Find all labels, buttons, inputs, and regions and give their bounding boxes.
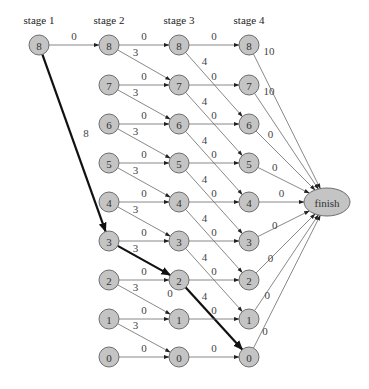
state-node-stage3-8: 8 — [169, 35, 189, 55]
edge-weight-label: 0 — [211, 304, 217, 316]
node-label: 8 — [176, 40, 182, 52]
edge-weight-label: 10 — [264, 85, 276, 97]
state-node-stage4-7: 7 — [239, 75, 259, 95]
edge-weight-label: 10 — [264, 45, 276, 57]
transition-edge — [186, 52, 243, 116]
node-label: 1 — [246, 314, 252, 326]
edge-weight-label: 0 — [211, 265, 217, 277]
edge-weight-label: 4 — [202, 95, 208, 107]
node-label: 8 — [36, 40, 42, 52]
edge-weight-label: 0 — [141, 187, 147, 199]
node-label: 6 — [176, 119, 182, 131]
state-node-stage2-3: 3 — [99, 231, 119, 251]
node-label: 0 — [176, 352, 182, 364]
finish-label: finish — [314, 197, 340, 209]
node-label: 4 — [106, 197, 112, 209]
node-label: 1 — [176, 314, 182, 326]
state-node-stage4-4: 4 — [239, 192, 259, 212]
node-label: 8 — [106, 40, 112, 52]
node-label: 0 — [106, 352, 112, 364]
node-label: 5 — [176, 158, 182, 170]
edge-weight-label: 0 — [141, 304, 147, 316]
node-label: 0 — [246, 352, 252, 364]
stage-label: stage 2 — [94, 14, 125, 26]
node-label: 5 — [246, 158, 252, 170]
edge-weight-label: 0 — [268, 128, 274, 140]
transition-edge — [258, 211, 309, 237]
state-node-stage4-0: 0 — [239, 347, 259, 367]
state-node-stage4-2: 2 — [239, 270, 259, 290]
edge-weight-label: 3 — [133, 164, 139, 176]
edge-weight-label: 0 — [211, 109, 217, 121]
finish-node: finish — [304, 188, 350, 216]
edge-weight-label: 0 — [272, 219, 278, 231]
edge-weight-label: 0 — [211, 30, 217, 42]
state-node-stage2-7: 7 — [99, 75, 119, 95]
state-node-stage3-7: 7 — [169, 75, 189, 95]
state-node-stage4-5: 5 — [239, 153, 259, 173]
edge-weight-label: 0 — [167, 287, 173, 299]
state-node-stage1-8: 8 — [29, 35, 49, 55]
edge-weight-label: 0 — [141, 148, 147, 160]
node-label: 5 — [106, 158, 112, 170]
edge-weight-label: 4 — [202, 290, 208, 302]
state-node-stage3-2: 2 — [169, 270, 189, 290]
edge-weight-label: 3 — [133, 46, 139, 58]
state-node-stage4-8: 8 — [239, 35, 259, 55]
node-label: 2 — [246, 275, 252, 287]
node-label: 3 — [246, 236, 252, 248]
edge-weight-label: 0 — [264, 289, 270, 301]
edge-weight-label: 0 — [141, 109, 147, 121]
state-node-stage3-4: 4 — [169, 192, 189, 212]
edge-weight-label: 0 — [141, 70, 147, 82]
edge-weight-label: 3 — [133, 125, 139, 137]
edge-weight-label: 4 — [202, 251, 208, 263]
node-label: 8 — [246, 40, 252, 52]
edge-weight-label: 4 — [202, 134, 208, 146]
optimal-path-edge — [186, 287, 243, 349]
edge-weight-label: 4 — [202, 173, 208, 185]
node-label: 3 — [176, 236, 182, 248]
optimal-path-edge — [42, 54, 105, 231]
node-label: 1 — [106, 314, 112, 326]
node-label: 2 — [176, 275, 182, 287]
state-node-stage4-6: 6 — [239, 114, 259, 134]
edge-weight-label: 3 — [133, 203, 139, 215]
node-label: 6 — [246, 119, 252, 131]
state-node-stage4-1: 1 — [239, 309, 259, 329]
edge-weight-label: 3 — [133, 319, 139, 331]
stage-label: stage 4 — [234, 14, 265, 26]
state-node-stage2-5: 5 — [99, 153, 119, 173]
node-label: 3 — [106, 236, 112, 248]
edge-weight-label: 0 — [211, 226, 217, 238]
state-node-stage3-1: 1 — [169, 309, 189, 329]
edge-weight-label: 3 — [133, 86, 139, 98]
edge-weight-label: 0 — [262, 325, 268, 337]
edge-weight-label: 0 — [268, 252, 274, 264]
edge-weight-label: 3 — [133, 281, 139, 293]
edge-weight-label: 0 — [141, 265, 147, 277]
node-label: 6 — [106, 119, 112, 131]
edge-weight-label: 0 — [141, 30, 147, 42]
transition-edge — [253, 54, 320, 189]
state-node-stage3-5: 5 — [169, 153, 189, 173]
edge-weight-label: 8 — [83, 127, 89, 139]
edge-weight-label: 3 — [133, 242, 139, 254]
transition-edge — [255, 93, 319, 189]
stage-labels: stage 1stage 2stage 3stage 4 — [24, 14, 265, 26]
edge-weight-label: 4 — [202, 55, 208, 67]
edge-weight-label: 0 — [211, 342, 217, 354]
edge-weight-label: 0 — [141, 342, 147, 354]
edge-weight-label: 0 — [71, 30, 77, 42]
state-node-stage2-4: 4 — [99, 192, 119, 212]
edge-weight-label: 4 — [202, 212, 208, 224]
state-node-stage4-3: 3 — [239, 231, 259, 251]
edge-weight-label: 0 — [211, 148, 217, 160]
state-node-stage2-0: 0 — [99, 347, 119, 367]
stage-graph-diagram: stage 1stage 2stage 3stage 4 08030303030… — [0, 0, 369, 389]
edge-weight-label: 0 — [141, 226, 147, 238]
state-node-stage3-6: 6 — [169, 114, 189, 134]
state-node-stage2-6: 6 — [99, 114, 119, 134]
node-label: 4 — [246, 197, 252, 209]
node-label: 2 — [106, 275, 112, 287]
